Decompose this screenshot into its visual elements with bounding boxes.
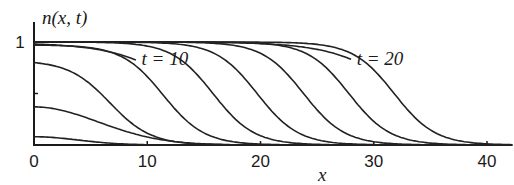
x-tick-label: 20 bbox=[251, 152, 270, 171]
curves bbox=[34, 42, 512, 145]
curve-t4 bbox=[34, 42, 512, 145]
annotation-label: t = 20 bbox=[357, 48, 404, 69]
fisher-wave-chart: n(x, t) x 010203040 1 t = 10t = 20 bbox=[0, 0, 514, 185]
curve-t8 bbox=[34, 42, 512, 145]
curve-t6 bbox=[34, 42, 512, 145]
curve-t2 bbox=[34, 63, 512, 145]
curve-t20-label-curve bbox=[34, 42, 351, 59]
x-tick-label: 10 bbox=[138, 152, 157, 171]
y-tick-label: 1 bbox=[15, 33, 24, 52]
annotation-label: t = 10 bbox=[142, 48, 189, 69]
x-tick-label: 0 bbox=[29, 152, 38, 171]
x-tick-label: 30 bbox=[364, 152, 383, 171]
x-tick-labels: 010203040 bbox=[29, 152, 496, 171]
x-axis-label: x bbox=[317, 164, 327, 185]
annotations: t = 10t = 20 bbox=[142, 48, 404, 69]
curve-t7 bbox=[34, 42, 512, 145]
y-tick-labels: 1 bbox=[15, 33, 24, 52]
axes bbox=[34, 22, 513, 146]
curve-t5 bbox=[34, 42, 512, 145]
x-tick-label: 40 bbox=[478, 152, 497, 171]
y-axis-label: n(x, t) bbox=[42, 7, 87, 29]
